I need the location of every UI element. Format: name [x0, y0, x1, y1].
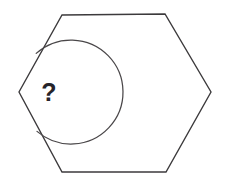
- geometry-figure: ?: [0, 0, 235, 184]
- figure-canvas: ?: [0, 0, 235, 184]
- unknown-angle-label: ?: [41, 78, 56, 106]
